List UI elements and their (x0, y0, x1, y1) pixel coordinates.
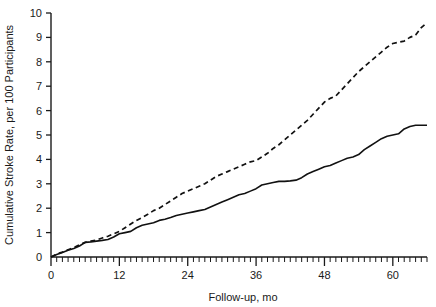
tick-labels-group: 01234567891001224364860 (30, 7, 399, 281)
x-tick-label-48: 48 (318, 269, 330, 281)
x-tick-label-12: 12 (113, 269, 125, 281)
y-tick-label-8: 8 (36, 56, 42, 68)
y-axis-title: Cumulative Stroke Rate, per 100 Particip… (3, 24, 15, 245)
tick-marks-group (46, 13, 427, 266)
series-dashed-upper-curve (51, 23, 427, 257)
y-tick-label-10: 10 (30, 7, 42, 19)
y-tick-label-7: 7 (36, 80, 42, 92)
chart-plot-area: 01234567891001224364860 Follow-up, mo Cu… (0, 0, 436, 307)
y-tick-label-6: 6 (36, 105, 42, 117)
y-tick-label-0: 0 (36, 251, 42, 263)
stroke-rate-chart-figure: 01234567891001224364860 Follow-up, mo Cu… (0, 0, 436, 307)
x-tick-label-0: 0 (48, 269, 54, 281)
axes-group (51, 13, 427, 257)
x-tick-label-36: 36 (250, 269, 262, 281)
y-tick-label-1: 1 (36, 227, 42, 239)
x-tick-label-24: 24 (182, 269, 194, 281)
y-tick-label-5: 5 (36, 129, 42, 141)
data-series-group (51, 23, 427, 257)
y-tick-label-9: 9 (36, 31, 42, 43)
x-axis-title: Follow-up, mo (208, 291, 277, 303)
y-tick-label-4: 4 (36, 153, 42, 165)
y-tick-label-3: 3 (36, 178, 42, 190)
x-tick-label-60: 60 (387, 269, 399, 281)
y-tick-label-2: 2 (36, 202, 42, 214)
